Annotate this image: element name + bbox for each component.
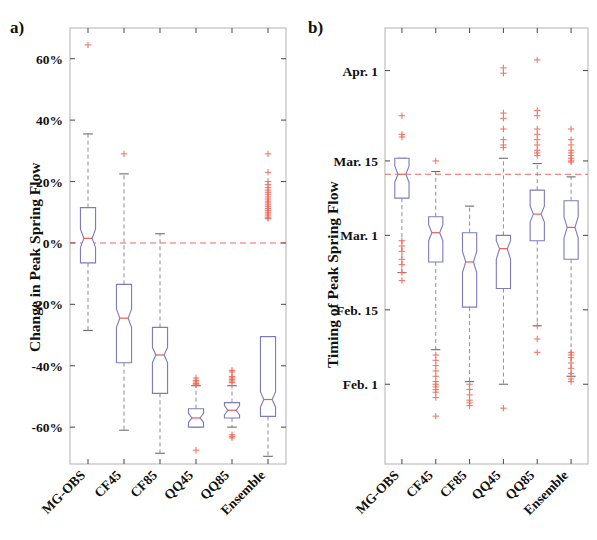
outlier-marker [433, 413, 439, 419]
x-category-label: CF45 [403, 467, 436, 500]
outlier-marker [399, 269, 405, 275]
outlier-marker [534, 323, 540, 329]
y-tick-label: Mar. 1 [340, 228, 378, 243]
outlier-marker [433, 394, 439, 400]
outlier-marker [399, 277, 405, 283]
box [395, 158, 409, 198]
outlier-marker [568, 126, 574, 132]
box [496, 235, 510, 288]
box [530, 190, 544, 241]
box [564, 201, 578, 259]
outlier-marker [534, 57, 540, 63]
outlier-marker [534, 113, 540, 119]
outlier-marker [500, 70, 506, 76]
outlier-marker [534, 336, 540, 342]
panel-b-boxplot: Apr. 1Mar. 15Mar. 1Feb. 15Feb. 1MG-OBSCF… [0, 0, 597, 540]
outlier-marker [399, 261, 405, 267]
outlier-marker [534, 349, 540, 355]
box [429, 217, 443, 262]
outlier-marker [433, 158, 439, 164]
figure-container: a) b) Change in Peak Spring Flow Timing … [0, 0, 597, 540]
x-category-label: QQ45 [469, 467, 504, 502]
outlier-marker [399, 113, 405, 119]
y-tick-label: Apr. 1 [342, 64, 378, 79]
outlier-marker [399, 248, 405, 254]
outlier-marker [500, 115, 506, 121]
x-category-label: CF85 [437, 467, 470, 500]
outlier-marker [500, 126, 506, 132]
outlier-marker [500, 405, 506, 411]
y-tick-label: Mar. 15 [334, 154, 379, 169]
outlier-marker [568, 159, 574, 165]
y-tick-label: Feb. 1 [343, 377, 378, 392]
y-tick-label: Feb. 15 [336, 303, 378, 318]
x-category-label: MG-OBS [353, 468, 402, 517]
box [462, 233, 476, 307]
